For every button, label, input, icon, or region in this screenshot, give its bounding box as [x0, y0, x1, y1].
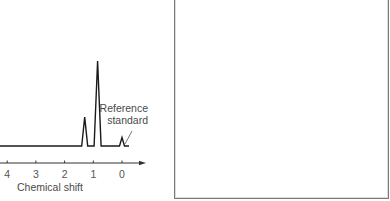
annotation-line-1: Reference	[100, 102, 148, 114]
x-axis-title: Chemical shift	[0, 181, 100, 193]
annotation-line-2: standard	[100, 114, 148, 126]
reference-standard-annotation: Reference standard	[100, 102, 148, 126]
empty-answer-panel	[174, 0, 389, 199]
x-axis-arrowhead-icon	[139, 161, 146, 165]
reference-leader-line	[125, 131, 132, 144]
x-axis	[0, 161, 146, 166]
x-axis-tick-label: 3	[28, 168, 44, 180]
x-axis-tick-label: 4	[0, 168, 15, 180]
x-axis-tick-label: 0	[114, 168, 130, 180]
x-axis-tick-label: 2	[57, 168, 73, 180]
x-axis-tick-label: 1	[85, 168, 101, 180]
